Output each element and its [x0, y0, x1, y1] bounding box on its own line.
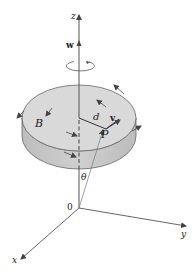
- z-axis-label: z: [70, 11, 76, 21]
- rotation-indicator: [66, 61, 94, 71]
- w-label: w: [65, 40, 74, 50]
- body-b-label: B: [34, 117, 43, 130]
- y-axis: [79, 208, 186, 226]
- coordinate-axes: [21, 156, 186, 259]
- velocity-v-label: v: [109, 113, 116, 123]
- theta-label: θ: [81, 172, 87, 182]
- x-axis-label: x: [12, 255, 17, 265]
- w-vector-arrowhead: [77, 40, 82, 46]
- origin-label: 0: [67, 202, 73, 212]
- rotating-disk-diagram: z w B d v P θ 0 y x: [0, 0, 196, 278]
- x-axis: [21, 208, 79, 259]
- diagram-svg: z w B d v P θ 0 y x: [0, 0, 196, 278]
- distance-d-label: d: [93, 111, 99, 122]
- point-p-label: P: [100, 128, 109, 141]
- y-axis-label: y: [180, 229, 187, 239]
